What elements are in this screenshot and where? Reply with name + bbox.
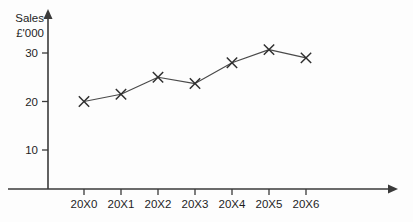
y-tick-label: 30 (25, 47, 38, 59)
data-point-marker (227, 58, 237, 68)
data-point-marker (190, 78, 200, 88)
data-point-marker (79, 96, 89, 106)
x-tick-label: 20X0 (71, 198, 98, 210)
y-axis-label-line2: £'000 (16, 27, 44, 39)
y-axis-group (44, 9, 53, 189)
data-point-marker (116, 89, 126, 99)
x-tick-label: 20X5 (256, 198, 283, 210)
x-tick-label: 20X1 (108, 198, 135, 210)
sales-series-markers (79, 44, 311, 106)
x-axis-group (8, 185, 398, 194)
y-axis-arrowhead (44, 9, 53, 19)
x-tick-label: 20X2 (145, 198, 172, 210)
data-point-marker (153, 72, 163, 82)
y-tick-label: 10 (25, 144, 38, 156)
data-point-marker (264, 44, 274, 54)
line-chart-figure: 102030 20X020X120X220X320X420X520X6 Sale… (0, 0, 413, 222)
x-tick-group: 20X020X120X220X320X420X520X6 (71, 189, 320, 210)
x-axis-arrowhead (388, 185, 398, 194)
y-tick-group: 102030 (25, 47, 48, 156)
y-tick-label: 20 (25, 96, 38, 108)
data-point-marker (301, 53, 311, 63)
chart-canvas: 102030 20X020X120X220X320X420X520X6 Sale… (0, 0, 413, 222)
x-tick-label: 20X6 (293, 198, 320, 210)
sales-series-line (84, 50, 306, 102)
y-axis-label-line1: Sales (15, 12, 44, 24)
x-tick-label: 20X3 (182, 198, 209, 210)
x-tick-label: 20X4 (219, 198, 246, 210)
